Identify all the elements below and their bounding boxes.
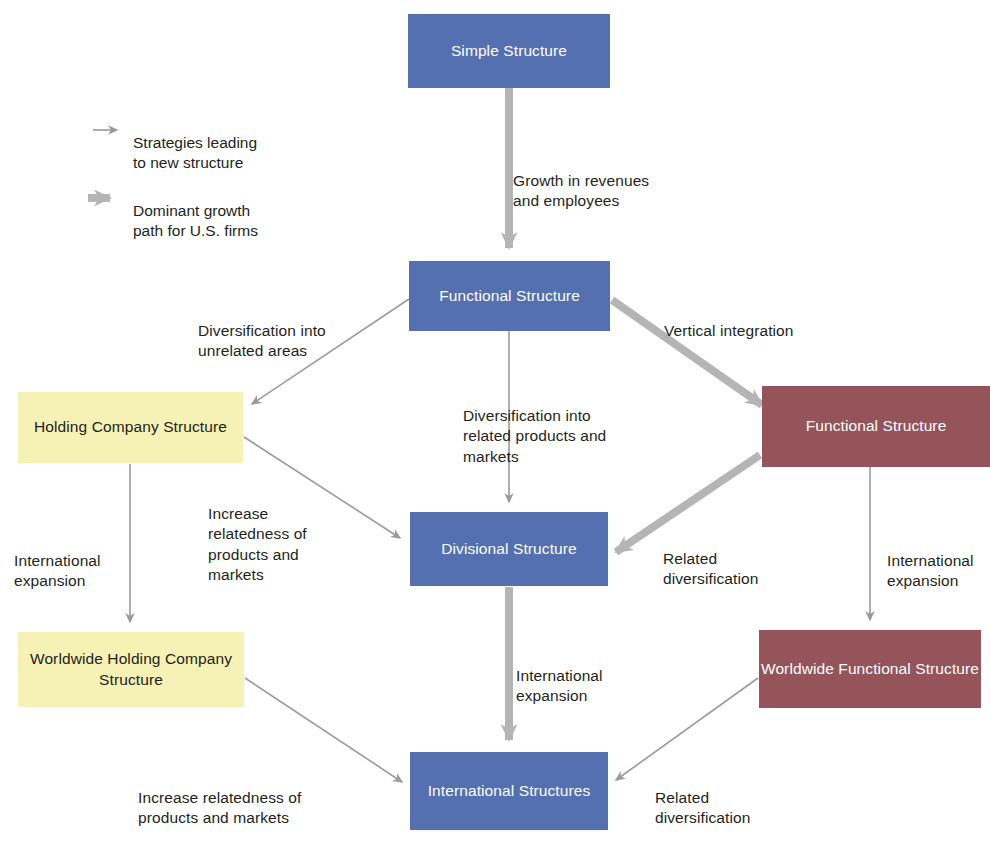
edge-label-diversification-related: Diversification into related products an… — [463, 385, 675, 467]
node-label: Holding Company Structure — [34, 417, 227, 437]
legend-label: Strategies leading to new structure — [133, 134, 257, 172]
edge-label-international-expansion-right: International expansion — [887, 530, 990, 592]
edge-label-increase-relatedness-middle: Increase relatedness of products and mar… — [208, 483, 343, 586]
node-worldwide-holding-company-structure[interactable]: Worldwide Holding Company Structure — [18, 632, 244, 707]
edge-label-increase-relatedness-bottom: Increase relatedness of products and mar… — [138, 767, 388, 829]
node-functional-structure-vertical[interactable]: Functional Structure — [762, 386, 990, 467]
node-label: Simple Structure — [451, 41, 567, 61]
edge-label-growth-in-revenues: Growth in revenues and employees — [513, 150, 733, 212]
edge-label-text: Growth in revenues and employees — [513, 172, 649, 210]
diagram-canvas: Simple Structure Functional Structure Ho… — [0, 0, 990, 844]
node-functional-structure[interactable]: Functional Structure — [409, 261, 610, 331]
node-label: Divisional Structure — [441, 539, 577, 559]
legend-item-strategies: Strategies leading to new structure — [133, 112, 333, 174]
edge-label-related-diversification-bottom: Related diversification — [655, 767, 815, 829]
node-label: Functional Structure — [439, 286, 580, 306]
node-divisional-structure[interactable]: Divisional Structure — [410, 512, 608, 586]
node-simple-structure[interactable]: Simple Structure — [408, 14, 610, 88]
node-international-structures[interactable]: International Structures — [410, 752, 608, 830]
node-label: Worldwide Holding Company Structure — [18, 649, 244, 689]
node-holding-company-structure[interactable]: Holding Company Structure — [18, 392, 243, 463]
edge-label-international-expansion-center: International expansion — [516, 645, 661, 707]
edge-label-text: Vertical integration — [664, 322, 794, 339]
node-label: International Structures — [428, 781, 591, 801]
edge-label-text: Related diversification — [663, 550, 758, 588]
edge-label-text: International expansion — [516, 667, 603, 705]
legend-item-dominant-path: Dominant growth path for U.S. firms — [133, 180, 343, 242]
node-worldwide-functional-structure[interactable]: Worldwide Functional Structure — [759, 630, 981, 708]
edge-label-vertical-integration: Vertical integration — [664, 300, 874, 341]
legend-label: Dominant growth path for U.S. firms — [133, 202, 258, 240]
edge-label-text: International expansion — [887, 552, 974, 590]
edge-label-text: Increase relatedness of products and mar… — [208, 505, 307, 584]
edge-label-international-expansion-left: International expansion — [14, 530, 154, 592]
edge-label-related-diversification-middle: Related diversification — [663, 528, 813, 590]
edge-label-text: Diversification into related products an… — [463, 407, 606, 465]
edge-label-text: Increase relatedness of products and mar… — [138, 789, 301, 827]
edge-label-text: International expansion — [14, 552, 101, 590]
edge-label-diversification-unrelated: Diversification into unrelated areas — [198, 300, 403, 362]
node-label: Functional Structure — [806, 416, 947, 436]
edge-label-text: Diversification into unrelated areas — [198, 322, 326, 360]
node-label: Worldwide Functional Structure — [761, 659, 979, 679]
edge-label-text: Related diversification — [655, 789, 750, 827]
